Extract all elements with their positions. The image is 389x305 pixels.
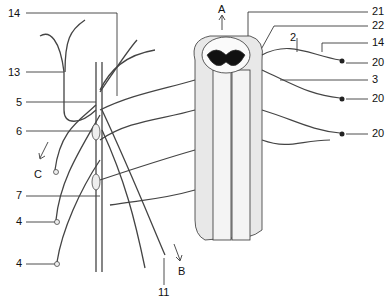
label-4-upper: 4 <box>16 216 22 227</box>
label-13: 13 <box>8 67 20 78</box>
label-arrow-a: A <box>218 4 225 15</box>
label-6: 6 <box>16 126 22 137</box>
label-22: 22 <box>372 20 384 31</box>
label-4-lower: 4 <box>16 258 22 269</box>
label-14-left: 14 <box>8 8 20 19</box>
label-20-top: 20 <box>372 57 384 68</box>
label-14-right: 14 <box>372 37 384 48</box>
label-21: 21 <box>372 6 384 17</box>
label-20-bottom: 20 <box>372 128 384 139</box>
label-arrow-c: C <box>34 169 42 180</box>
label-7: 7 <box>16 190 22 201</box>
label-2: 2 <box>290 32 296 43</box>
label-arrow-b: B <box>178 266 185 277</box>
diagram-canvas: 14 13 5 6 C 7 4 4 B 11 A 21 22 2 14 20 3… <box>0 0 389 305</box>
spinal-cord-illustration <box>0 0 389 305</box>
label-5: 5 <box>16 97 22 108</box>
label-20-middle: 20 <box>372 93 384 104</box>
label-11: 11 <box>158 287 169 298</box>
label-3: 3 <box>372 74 378 85</box>
